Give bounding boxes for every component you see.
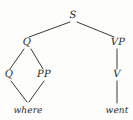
node-pp: PP xyxy=(37,70,51,80)
node-vp: VP xyxy=(111,38,125,48)
edge-q-to-where xyxy=(11,81,27,102)
node-terminal-where: where xyxy=(14,107,43,116)
edge-q-to-pp xyxy=(31,49,43,69)
syntax-tree-diagram: S Q VP Q PP V where went xyxy=(0,0,133,120)
node-q-upper: Q xyxy=(23,38,31,48)
edge-s-to-q xyxy=(29,22,70,37)
edge-s-to-vp xyxy=(77,22,114,37)
node-s: S xyxy=(69,11,76,21)
edge-q-to-q xyxy=(10,49,24,69)
node-v: V xyxy=(113,70,120,80)
edge-pp-to-where xyxy=(29,81,44,102)
node-q-lower: Q xyxy=(5,70,13,80)
tree-edges-group xyxy=(0,0,133,120)
node-terminal-went: went xyxy=(106,107,129,116)
